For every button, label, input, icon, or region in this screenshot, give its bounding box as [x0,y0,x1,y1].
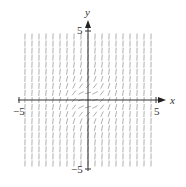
slope-segment [60,62,61,68]
slope-segment [116,69,117,75]
slope-segment [116,132,117,138]
slope-segment [94,69,95,75]
slope-segment [60,125,61,131]
slope-segment [116,125,117,131]
slope-segment [46,90,47,96]
slope-segment [116,76,117,82]
slope-segment [59,104,60,110]
y-min-label: −5 [71,163,83,175]
slope-segment [60,118,61,124]
slope-segment [92,92,97,95]
y-axis-arrow-icon [85,20,91,28]
slope-segment [108,104,110,110]
slope-segment [94,118,96,124]
slope-segment [108,76,109,82]
slope-segment [93,112,97,117]
slope-segment [100,91,104,96]
slope-segment [67,132,68,138]
slope-segment [46,104,47,110]
slope-segment [78,92,83,95]
slope-segment [79,84,83,89]
slope-segment [102,62,103,68]
slope-segment [123,83,124,89]
slope-segment [78,106,83,109]
slope-segment [67,62,68,68]
slope-segment [46,83,47,89]
slope-segment [66,90,68,96]
slope-segment [80,76,82,82]
slope-segment [123,125,124,131]
slope-segment [102,139,103,145]
slope-segment [101,111,104,116]
slope-segment [92,106,97,109]
slope-segment [123,76,124,82]
slope-segment [123,90,124,96]
slope-segment [59,111,60,117]
slope-segment [72,105,76,110]
x-axis-arrow-icon [158,97,166,103]
slope-segment [66,76,67,82]
slope-segment [94,125,95,131]
slope-segment [102,132,103,138]
slope-segment [74,62,75,68]
slope-segment [73,69,74,75]
slope-segment [123,69,124,75]
slope-segment [123,104,124,110]
slope-segment [79,112,83,117]
x-axis-label: x [169,94,175,106]
slope-segment [46,76,47,82]
slope-segment [66,83,68,89]
slope-segment [46,111,47,117]
slope-segment [115,111,116,117]
slope-segment [108,118,109,124]
slope-segment [73,125,74,131]
plot-area: x y −5 5 5 −5 [0,0,186,187]
slope-segment [95,55,96,61]
slope-segment [53,76,54,82]
slope-segment [81,132,82,138]
y-max-label: 5 [77,24,83,36]
slope-segment [81,139,82,145]
slope-segment [109,69,110,75]
slope-segment [95,139,96,145]
slope-segment [102,55,103,61]
slope-segment [123,118,124,124]
slope-segment [67,139,68,145]
slope-segment [101,83,104,88]
slope-segment [67,69,68,75]
slope-segment [101,118,103,124]
slope-segment [74,132,75,138]
slope-segment [115,90,116,96]
slope-segment [130,83,131,89]
slope-segment [67,125,68,131]
slope-segment [66,104,68,110]
slope-segment [109,55,110,61]
slope-segment [67,55,68,61]
slope-segment [100,105,104,110]
slope-segment [130,111,131,117]
slope-segment [80,69,81,75]
slope-segment [123,111,124,117]
slope-segment [66,111,68,117]
slope-segment [60,69,61,75]
slope-segment [95,132,96,138]
slope-segment [73,83,76,88]
slope-segment [74,55,75,61]
slope-segment [115,83,116,89]
slope-segment [66,118,67,124]
slope-segment [130,90,131,96]
slope-segment [53,118,54,124]
slope-segment [53,104,54,110]
slope-segment [53,83,54,89]
slope-segment [101,125,102,131]
slope-segment [116,62,117,68]
slope-segment [108,90,110,96]
slope-segment [109,125,110,131]
slope-segment [81,62,82,68]
slope-segment [60,76,61,82]
x-max-label: 5 [154,105,160,117]
slope-segment [130,76,131,82]
slope-segment [59,83,60,89]
slope-segment [108,111,110,117]
slope-segment [93,84,97,89]
